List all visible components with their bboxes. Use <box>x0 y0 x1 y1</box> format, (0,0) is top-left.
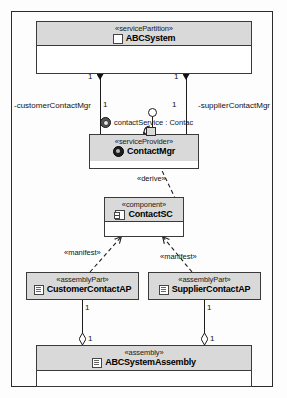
node-contactmgr-name: ContactMgr <box>127 146 175 157</box>
node-contactsc-name: ContactSC <box>128 209 172 220</box>
derive-label: «derive» <box>137 174 166 183</box>
node-contactmgr-stereotype: «serviceProvider» <box>90 137 198 146</box>
node-contactsc-body <box>105 222 183 236</box>
node-abcsystem-body <box>37 46 251 73</box>
multiplicity-comp-right-top: 1 <box>174 72 178 81</box>
node-customercontactap-header: «assemblyPart» CustomerContactAP <box>27 273 138 299</box>
node-suppliercontactap-nameline: SupplierContactAP <box>149 284 260 295</box>
multiplicity-agg-right-top: 1 <box>207 303 211 312</box>
artifact-icon <box>159 285 169 295</box>
node-abcsystem-header: «servicePartition» ABCSystem <box>37 22 251 46</box>
node-suppliercontactap-name: SupplierContactAP <box>172 284 251 295</box>
component-icon <box>115 210 125 220</box>
manifest-right-label: «manifest» <box>160 252 197 261</box>
node-suppliercontactap-header: «assemblyPart» SupplierContactAP <box>149 273 260 299</box>
node-contactmgr-header: «serviceProvider» ContactMgr <box>90 135 198 161</box>
node-abcsystem[interactable]: «servicePartition» ABCSystem <box>36 21 252 74</box>
node-abcsystemassembly-name: ABCSystemAssembly <box>105 357 196 368</box>
node-abcsystemassembly-body <box>37 371 251 386</box>
artifact-icon <box>92 358 102 368</box>
node-abcsystem-name: ABCSystem <box>126 33 176 44</box>
node-contactsc[interactable]: «component» ContactSC <box>104 197 184 237</box>
node-contactmgr[interactable]: «serviceProvider» ContactMgr <box>89 134 199 169</box>
multiplicity-agg-right-bottom: 1 <box>210 334 214 343</box>
node-contactmgr-nameline: ContactMgr <box>90 146 198 157</box>
node-abcsystem-nameline: ABCSystem <box>37 33 251 44</box>
node-abcsystem-stereotype: «servicePartition» <box>37 24 251 33</box>
node-abcsystemassembly-header: «assembly» ABCSystemAssembly <box>37 346 251 371</box>
service-provider-icon <box>113 146 124 157</box>
interface-label-group: contactService : Contac <box>100 117 193 128</box>
multiplicity-agg-left-top: 1 <box>85 303 89 312</box>
provided-interface-ball-icon <box>148 108 157 117</box>
node-contactmgr-body <box>90 161 198 168</box>
manifest-left-label: «manifest» <box>64 248 101 257</box>
component-port <box>146 127 156 136</box>
node-contactsc-header: «component» ContactSC <box>105 198 183 222</box>
interface-label-text: contactService : Contac <box>114 118 193 127</box>
node-contactsc-nameline: ContactSC <box>105 209 183 220</box>
multiplicity-comp-left-top: 1 <box>88 72 92 81</box>
role-label-supplier: -supplierContactMgr <box>198 101 270 110</box>
node-customercontactap[interactable]: «assemblyPart» CustomerContactAP <box>26 272 139 300</box>
diagram-canvas: 1 1 1 1 -customerContactMgr -supplierCon… <box>0 0 287 398</box>
node-contactsc-stereotype: «component» <box>105 200 183 209</box>
node-customercontactap-nameline: CustomerContactAP <box>27 284 138 295</box>
node-abcsystemassembly[interactable]: «assembly» ABCSystemAssembly <box>36 345 252 387</box>
node-abcsystemassembly-nameline: ABCSystemAssembly <box>37 357 251 368</box>
multiplicity-agg-left-bottom: 1 <box>88 334 92 343</box>
node-suppliercontactap-stereotype: «assemblyPart» <box>149 275 260 284</box>
multiplicity-comp-right-bottom: 1 <box>172 100 176 109</box>
class-icon <box>113 34 123 44</box>
node-customercontactap-stereotype: «assemblyPart» <box>27 275 138 284</box>
node-suppliercontactap[interactable]: «assemblyPart» SupplierContactAP <box>148 272 261 300</box>
interface-ball-icon <box>100 117 111 128</box>
node-customercontactap-name: CustomerContactAP <box>47 284 132 295</box>
artifact-icon <box>34 285 44 295</box>
aggregation-diamond-left <box>79 333 86 345</box>
node-abcsystemassembly-stereotype: «assembly» <box>37 348 251 357</box>
role-label-customer: -customerContactMgr <box>14 101 91 110</box>
aggregation-diamond-right <box>201 333 208 345</box>
multiplicity-comp-left-bottom: 1 <box>103 100 107 109</box>
